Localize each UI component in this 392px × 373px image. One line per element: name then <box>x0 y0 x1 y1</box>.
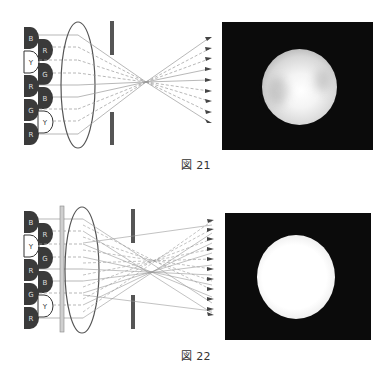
figure-caption-21: 図 21 <box>0 156 392 172</box>
aperture-bottom <box>131 295 135 329</box>
led-g: G <box>24 283 39 305</box>
aperture-top <box>131 209 135 243</box>
led-b: B <box>24 27 39 49</box>
svg-text:R: R <box>29 83 34 91</box>
led-array: B Y R G R R G B Y <box>24 27 53 145</box>
svg-text:G: G <box>42 255 47 263</box>
output-image-uneven <box>222 22 373 150</box>
led-y: Y <box>38 111 53 133</box>
svg-text:Y: Y <box>42 119 48 127</box>
figure-caption-22: 図 22 <box>0 347 392 363</box>
svg-text:B: B <box>29 35 34 43</box>
svg-text:R: R <box>29 267 34 275</box>
led-b: B <box>38 271 53 293</box>
svg-text:B: B <box>29 219 34 227</box>
led-g: G <box>38 63 53 85</box>
led-y: Y <box>24 235 39 257</box>
svg-text:R: R <box>43 47 48 55</box>
led-r: R <box>24 259 39 281</box>
focused-rays <box>78 35 209 134</box>
led-r: R <box>38 39 53 61</box>
svg-text:Y: Y <box>28 243 34 251</box>
light-spot <box>257 235 335 319</box>
led-y: Y <box>24 51 39 73</box>
output-image-uniform <box>225 213 371 340</box>
led-r: R <box>24 75 39 97</box>
svg-text:G: G <box>42 71 47 79</box>
arrowheads <box>207 219 214 316</box>
svg-text:G: G <box>28 291 33 299</box>
svg-text:B: B <box>43 279 48 287</box>
svg-text:G: G <box>28 107 33 115</box>
figure-21: B Y R G R R G B Y <box>0 0 392 180</box>
svg-text:Y: Y <box>28 59 34 67</box>
led-b: B <box>24 211 39 233</box>
led-r: R <box>24 307 39 329</box>
led-g: G <box>38 247 53 269</box>
aperture-bottom <box>110 112 114 145</box>
svg-text:B: B <box>43 95 48 103</box>
aperture-top <box>110 21 114 55</box>
arrowheads <box>205 37 212 123</box>
scattered-rays <box>83 219 212 318</box>
led-b: B <box>38 87 53 109</box>
svg-text:R: R <box>29 315 34 323</box>
led-r: R <box>38 223 53 245</box>
figure-22: B Y R G R R G B Y <box>0 185 392 373</box>
svg-text:Y: Y <box>42 303 48 311</box>
diffuser-plate <box>60 206 64 332</box>
led-y: Y <box>38 295 53 317</box>
led-r: R <box>24 123 39 145</box>
led-array: B Y R G R R G B Y <box>24 211 53 329</box>
led-g: G <box>24 99 39 121</box>
svg-text:R: R <box>29 131 34 139</box>
svg-text:R: R <box>43 231 48 239</box>
